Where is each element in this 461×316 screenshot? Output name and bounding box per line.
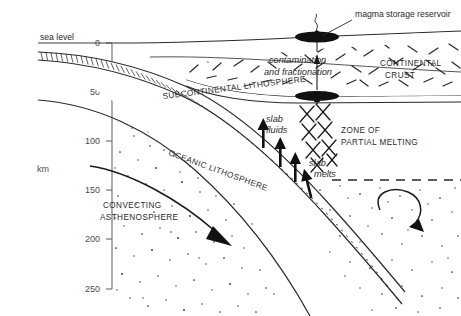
continental-crust-label-line2: CRUST xyxy=(385,71,415,80)
convecting-asthenosphere-label-line1: CONVECTING xyxy=(103,201,162,210)
slab-melts-label-line2: melts xyxy=(314,169,336,179)
convecting-asthenosphere-label-line2: ASTHENOSPHERE xyxy=(100,213,179,222)
magma-reservoir-lower xyxy=(295,91,339,101)
slab-fluids-label-line2: fluids xyxy=(266,125,288,135)
mantle-wedge-flow-arrow xyxy=(378,190,421,222)
axis-tick-250: 250 xyxy=(85,284,100,294)
contamination-label-line1: contamination xyxy=(269,55,326,65)
convection-arrowhead xyxy=(206,226,232,246)
axis-tick-200: 200 xyxy=(85,234,100,244)
axis-unit-label: km xyxy=(37,164,49,174)
axis-tick-100: 100 xyxy=(85,136,100,146)
continental-crust-label-line1: CONTINENTAL xyxy=(380,59,442,68)
partial-melting-label-line2: PARTIAL MELTING xyxy=(341,138,418,147)
magma-reservoir-label: magma storage reservoir xyxy=(355,9,451,19)
slab-fluids-label-line1: slab xyxy=(266,114,283,124)
magma-reservoir-leader-line xyxy=(322,20,352,36)
convection-arrow xyxy=(90,166,216,232)
axis-tick-150: 150 xyxy=(85,185,100,195)
subduction-zone-diagram: 0 50 100 150 200 250 km sea level xyxy=(0,0,461,316)
partial-melting-label-line1: ZONE OF xyxy=(341,126,380,135)
slab-melts-label-line1: slab xyxy=(309,158,326,168)
sea-level-label: sea level xyxy=(40,32,74,42)
